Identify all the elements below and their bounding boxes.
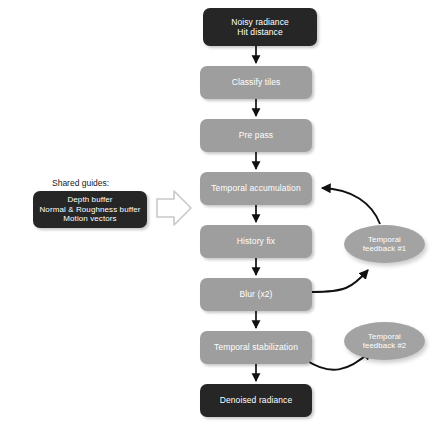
node-denoised-radiance[interactable]: Denoised radiance (200, 384, 312, 417)
edge-feedback1-to-accumulation (322, 188, 380, 224)
node-classify-tiles[interactable]: Classify tiles (200, 66, 312, 99)
edge-blur-to-feedback1 (312, 270, 368, 292)
node-temporal-stabilization[interactable]: Temporal stabilization (200, 331, 312, 364)
block-arrow-icon (157, 191, 191, 225)
node-blur-x2[interactable]: Blur (x2) (200, 278, 312, 311)
node-noisy-radiance[interactable]: Noisy radiance Hit distance (203, 8, 317, 46)
node-shared-guides[interactable]: Depth buffer Normal & Roughness buffer M… (33, 191, 147, 228)
node-history-fix[interactable]: History fix (200, 225, 312, 258)
node-temporal-feedback-1[interactable]: Temporal feedback #1 (344, 225, 425, 263)
shared-guides-caption: Shared guides: (52, 178, 109, 188)
node-temporal-accumulation[interactable]: Temporal accumulation (200, 172, 312, 205)
node-temporal-feedback-2[interactable]: Temporal feedback #2 (344, 322, 425, 360)
node-pre-pass[interactable]: Pre pass (200, 119, 312, 152)
diagram-canvas: Noisy radiance Hit distance Classify til… (0, 0, 441, 430)
